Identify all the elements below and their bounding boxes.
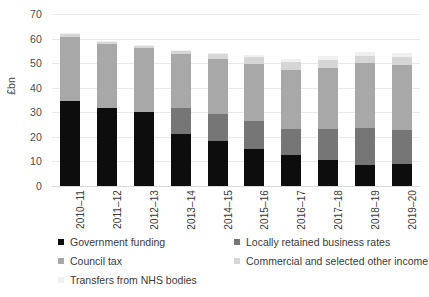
bar-segment[interactable] [97, 108, 117, 186]
bar-segment[interactable] [392, 164, 412, 186]
bar-segment[interactable] [208, 59, 228, 114]
bar-segment[interactable] [60, 33, 80, 34]
bar-segment[interactable] [281, 59, 301, 62]
x-axis-tick-label: 2017–18 [333, 190, 344, 230]
legend-swatch-icon [58, 239, 64, 245]
bar-segment[interactable] [244, 149, 264, 186]
legend-label: Government funding [70, 236, 165, 248]
bar-segment[interactable] [171, 51, 191, 53]
legend-swatch-icon [234, 239, 240, 245]
bar-segment[interactable] [97, 44, 117, 108]
bar-group[interactable] [208, 14, 228, 186]
y-axis-tick-label: 20 [30, 131, 42, 143]
bar-group[interactable] [171, 14, 191, 186]
x-axis-tick-label: 2015–16 [259, 190, 270, 230]
bar-segment[interactable] [134, 112, 154, 186]
bar-segment[interactable] [281, 62, 301, 69]
bar-segment[interactable] [355, 52, 375, 56]
bar-group[interactable] [97, 14, 117, 186]
legend-row: Transfers from NHS bodies [58, 274, 418, 286]
bar-group[interactable] [318, 14, 338, 186]
legend-row: Government fundingLocally retained busin… [58, 236, 418, 248]
bar-segment[interactable] [134, 45, 154, 46]
plot-area [52, 14, 420, 186]
bar-segment[interactable] [281, 155, 301, 186]
bar-segment[interactable] [60, 101, 80, 186]
bar-segment[interactable] [318, 56, 338, 60]
bar-segment[interactable] [208, 114, 228, 141]
legend-label: Commercial and selected other income [246, 255, 428, 267]
bar-series-container [52, 14, 420, 186]
x-axis-tick-label: 2019–20 [407, 190, 418, 230]
y-axis-tick-label: 0 [36, 180, 42, 192]
bar-segment[interactable] [208, 54, 228, 60]
y-axis-tick-label: 30 [30, 106, 42, 118]
bar-segment[interactable] [208, 53, 228, 54]
bar-segment[interactable] [318, 60, 338, 67]
x-axis-tick-label: 2010–11 [75, 190, 86, 229]
bar-group[interactable] [392, 14, 412, 186]
x-axis-tick-label: 2013–14 [186, 190, 197, 230]
bar-segment[interactable] [244, 55, 264, 57]
bar-segment[interactable] [392, 130, 412, 165]
y-axis-tick-labels: 010203040506070 [0, 14, 48, 186]
legend-swatch-icon [58, 258, 64, 264]
x-axis-tick-label: 2011–12 [112, 190, 123, 229]
bar-segment[interactable] [281, 70, 301, 129]
bar-segment[interactable] [318, 160, 338, 186]
x-axis-tick-label: 2018–19 [370, 190, 381, 230]
bar-group[interactable] [355, 14, 375, 186]
legend-row: Council taxCommercial and selected other… [58, 255, 418, 267]
y-axis-tick-label: 50 [30, 57, 42, 69]
legend-label: Transfers from NHS bodies [70, 274, 197, 286]
bar-group[interactable] [281, 14, 301, 186]
stacked-bar-chart: £bn 010203040506070 2010–112011–122012–1… [0, 0, 429, 297]
bar-group[interactable] [244, 14, 264, 186]
y-axis-tick-label: 10 [30, 155, 42, 167]
bar-segment[interactable] [97, 41, 117, 42]
bar-segment[interactable] [171, 134, 191, 186]
y-axis-tick-label: 70 [30, 8, 42, 20]
bar-group[interactable] [60, 14, 80, 186]
bar-segment[interactable] [244, 57, 264, 64]
legend-item[interactable]: Transfers from NHS bodies [58, 274, 234, 286]
x-axis-tick-label: 2014–15 [223, 190, 234, 230]
bar-segment[interactable] [244, 121, 264, 149]
bar-segment[interactable] [355, 63, 375, 128]
bar-segment[interactable] [355, 56, 375, 64]
axis-zero-line [52, 186, 420, 187]
legend-item[interactable]: Locally retained business rates [234, 236, 418, 248]
y-axis-tick-label: 60 [30, 33, 42, 45]
bar-segment[interactable] [134, 48, 154, 112]
bar-segment[interactable] [244, 64, 264, 121]
bar-segment[interactable] [171, 54, 191, 109]
bar-segment[interactable] [318, 68, 338, 129]
y-axis-tick-label: 40 [30, 82, 42, 94]
legend-item[interactable]: Commercial and selected other income [234, 255, 428, 267]
bar-segment[interactable] [171, 108, 191, 134]
legend-label: Locally retained business rates [246, 236, 390, 248]
bar-segment[interactable] [392, 65, 412, 129]
bar-segment[interactable] [281, 129, 301, 156]
x-axis-tick-label: 2016–17 [296, 190, 307, 230]
bar-segment[interactable] [134, 46, 154, 48]
legend-label: Council tax [70, 255, 122, 267]
bar-segment[interactable] [355, 128, 375, 165]
bar-segment[interactable] [392, 57, 412, 65]
legend-swatch-icon [58, 277, 64, 283]
bar-segment[interactable] [171, 50, 191, 51]
bar-segment[interactable] [392, 53, 412, 57]
bar-segment[interactable] [97, 42, 117, 44]
legend-item[interactable]: Council tax [58, 255, 234, 267]
bar-segment[interactable] [60, 34, 80, 36]
bar-group[interactable] [134, 14, 154, 186]
legend-swatch-icon [234, 258, 240, 264]
legend-item[interactable]: Government funding [58, 236, 234, 248]
bar-segment[interactable] [355, 165, 375, 186]
bar-segment[interactable] [208, 141, 228, 186]
chart-legend: Government fundingLocally retained busin… [58, 236, 418, 293]
x-axis-tick-labels: 2010–112011–122012–132013–142014–152015–… [52, 188, 420, 234]
bar-segment[interactable] [60, 37, 80, 102]
x-axis-tick-label: 2012–13 [149, 190, 160, 230]
bar-segment[interactable] [318, 129, 338, 160]
